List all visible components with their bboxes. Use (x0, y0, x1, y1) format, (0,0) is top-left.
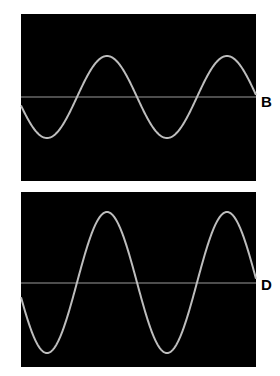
waveform-overlay (0, 0, 280, 376)
panel-label-d: D (261, 277, 272, 292)
panel-label-b: B (261, 94, 272, 109)
